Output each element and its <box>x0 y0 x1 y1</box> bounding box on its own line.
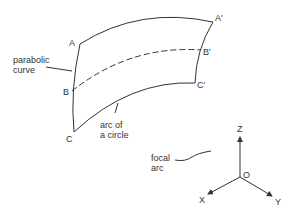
arc-of-circle-label-1: arc of <box>100 120 123 130</box>
point-b-label: B <box>63 87 69 97</box>
focal-arc <box>175 151 211 161</box>
point-b-prime-label: B' <box>203 47 211 57</box>
point-c-label: C <box>66 134 73 144</box>
edge-a-a-prime <box>80 17 213 44</box>
point-a-label: A <box>69 38 75 48</box>
leader-parabolic <box>46 67 72 71</box>
x-axis-label: X <box>199 195 205 205</box>
focal-arc-label-2: arc <box>151 163 164 173</box>
y-axis-label: Y <box>275 197 281 207</box>
origin-label: O <box>243 170 250 180</box>
focal-arc-label-1: focal <box>151 153 170 163</box>
edge-b-b-prime <box>72 50 201 91</box>
x-axis <box>208 177 240 194</box>
parabolic-curve-label-2: curve <box>13 65 35 75</box>
parabolic-curve-label-1: parabolic <box>13 55 50 65</box>
edge-c-c-prime <box>74 83 195 132</box>
point-c-prime-label: C' <box>197 80 205 90</box>
point-a-prime-label: A' <box>215 13 223 23</box>
leader-arc <box>115 103 118 113</box>
surface-diagram <box>0 0 291 214</box>
z-axis-label: Z <box>237 124 243 134</box>
arc-of-circle-label-2: a circle <box>100 130 129 140</box>
